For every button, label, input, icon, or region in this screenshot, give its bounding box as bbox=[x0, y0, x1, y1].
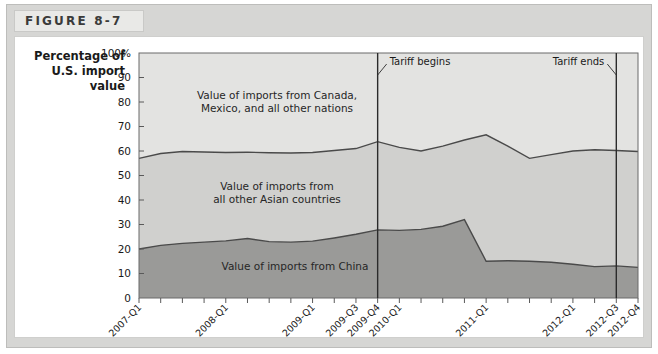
y-axis-tick-label: 40 bbox=[118, 194, 131, 206]
band-label-other-asian-countries: Value of imports from bbox=[220, 180, 334, 192]
x-axis-tick-label: 2008-Q1 bbox=[193, 302, 230, 337]
y-axis-tick-label: 0 bbox=[124, 292, 131, 304]
band-label-canada-mexico-other: Value of imports from Canada, bbox=[197, 89, 357, 101]
x-axis-tick-label: 2012-Q1 bbox=[540, 302, 577, 337]
y-axis-tick-label: 80 bbox=[118, 96, 131, 108]
band-label-canada-mexico-other: Mexico, and all other nations bbox=[201, 102, 353, 114]
x-axis-tick-label: 2011-Q1 bbox=[453, 302, 490, 337]
y-axis-tick-label: 50 bbox=[118, 169, 131, 181]
y-axis-tick-label: 70 bbox=[118, 120, 131, 132]
tariff-begins-label: Tariff begins bbox=[389, 56, 451, 67]
figure-root: FIGURE 8-7 Percentage of U.S. import val… bbox=[0, 0, 658, 354]
figure-header: FIGURE 8-7 bbox=[14, 10, 144, 32]
x-axis-tick-label: 2007-Q1 bbox=[106, 302, 143, 337]
x-axis-tick-label: 2009-Q1 bbox=[280, 302, 317, 337]
y-axis-tick-label: 30 bbox=[118, 218, 131, 230]
band-label-china: Value of imports from China bbox=[222, 260, 369, 272]
y-axis-tick-label: 90 bbox=[118, 71, 131, 83]
y-axis-tick-label: 20 bbox=[118, 243, 131, 255]
band-label-other-asian-countries: all other Asian countries bbox=[213, 193, 341, 205]
chart-card: Percentage of U.S. import value 100%9080… bbox=[14, 36, 644, 338]
figure-number-label: FIGURE 8-7 bbox=[25, 14, 123, 28]
tariff-ends-label: Tariff ends bbox=[552, 56, 605, 67]
y-axis-tick-label: 10 bbox=[118, 267, 131, 279]
stacked-area-chart: 100%90807060504030201002007-Q12008-Q1200… bbox=[15, 37, 643, 337]
y-axis-tick-label: 100% bbox=[101, 47, 131, 59]
y-axis-tick-label: 60 bbox=[118, 145, 131, 157]
